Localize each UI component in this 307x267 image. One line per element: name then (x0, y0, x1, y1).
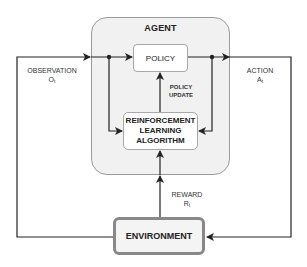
policy-label: POLICY (146, 54, 175, 63)
rl-label-line1: REINFORCEMENT (126, 116, 196, 126)
action-to-rl-edge (199, 57, 212, 131)
rl-algorithm-node: REINFORCEMENT LEARNING ALGORITHM (123, 112, 198, 150)
rl-label-line2: LEARNING (140, 126, 182, 136)
policy-update-line2: UPDATE (165, 91, 197, 99)
observation-to-rl-edge (109, 57, 122, 131)
reward-text: REWARD (166, 190, 208, 199)
policy-update-line1: POLICY (165, 83, 197, 91)
junction-dot-left (107, 55, 111, 59)
reward-symbol: Rt (166, 199, 208, 210)
rl-label-line3: ALGORITHM (136, 136, 184, 146)
observation-text: OBSERVATION (22, 66, 82, 75)
action-symbol: At (238, 75, 282, 86)
observation-symbol: Ot (22, 75, 82, 86)
policy-update-label: POLICY UPDATE (165, 83, 197, 99)
action-text: ACTION (238, 66, 282, 75)
reward-label: REWARD Rt (166, 190, 208, 210)
environment-label: ENVIRONMENT (126, 231, 193, 241)
environment-node: ENVIRONMENT (113, 217, 205, 255)
observation-label: OBSERVATION Ot (22, 66, 82, 86)
junction-dot-right (210, 55, 214, 59)
rl-agent-environment-diagram: AGENT POLI (0, 0, 307, 267)
action-label: ACTION At (238, 66, 282, 86)
policy-node: POLICY (133, 44, 188, 72)
